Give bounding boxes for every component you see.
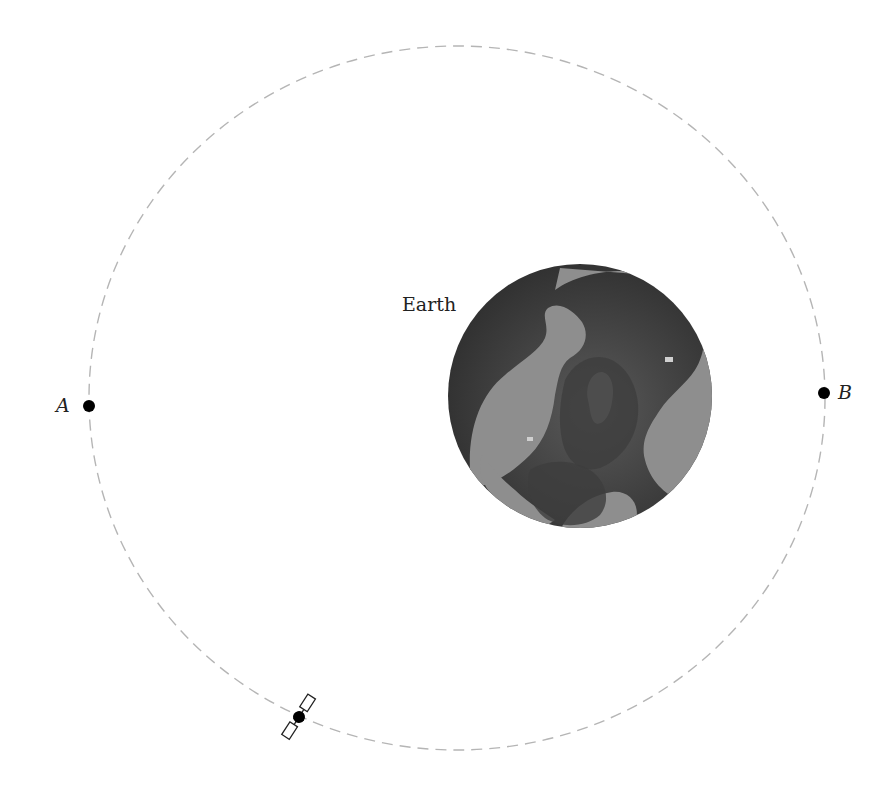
satellite-icon — [281, 694, 317, 741]
earth-globe — [448, 264, 712, 545]
point-b-label: B — [838, 381, 852, 403]
orbit-diagram — [0, 0, 896, 793]
point-b-marker — [818, 387, 830, 399]
earth-label: Earth — [402, 293, 456, 315]
point-a-marker — [83, 400, 95, 412]
point-a-label: A — [56, 394, 70, 416]
